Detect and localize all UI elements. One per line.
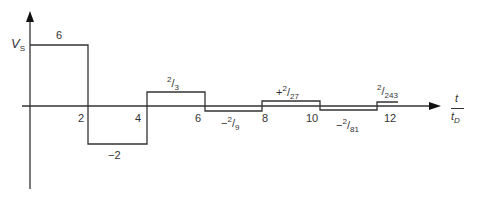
tick-label-4: 4 (135, 113, 141, 124)
step-waveform-diagram (0, 0, 477, 198)
level-label-plus-2-27: +2/27 (276, 85, 299, 101)
level-label-minus-2-9: −2/9 (221, 116, 239, 132)
y-axis-label: VS (11, 37, 25, 53)
x-axis-label-denominator: tD (451, 111, 460, 125)
x-axis-arrow-icon (429, 102, 441, 110)
level-label-6: 6 (56, 30, 62, 41)
level-label-2-3: 2/3 (167, 76, 179, 92)
x-axis-label-fraction-bar (451, 108, 464, 109)
tick-label-8: 8 (262, 113, 268, 124)
level-label-2-243: 2/243 (377, 84, 398, 100)
level-label-minus-2-81: −2/81 (336, 118, 359, 134)
level-label-minus-2: −2 (108, 150, 121, 161)
y-axis-arrow-icon (26, 11, 34, 22)
tick-label-10: 10 (306, 113, 318, 124)
tick-label-2: 2 (78, 113, 84, 124)
x-axis-label-numerator: t (455, 93, 458, 104)
tick-label-6: 6 (195, 113, 201, 124)
tick-label-12: 12 (384, 113, 396, 124)
